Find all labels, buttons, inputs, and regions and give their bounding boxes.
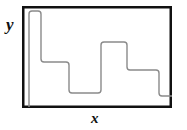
x-axis-label: x <box>91 111 99 126</box>
y-axis-label: y <box>6 16 14 33</box>
chart-figure: y x <box>0 0 187 130</box>
